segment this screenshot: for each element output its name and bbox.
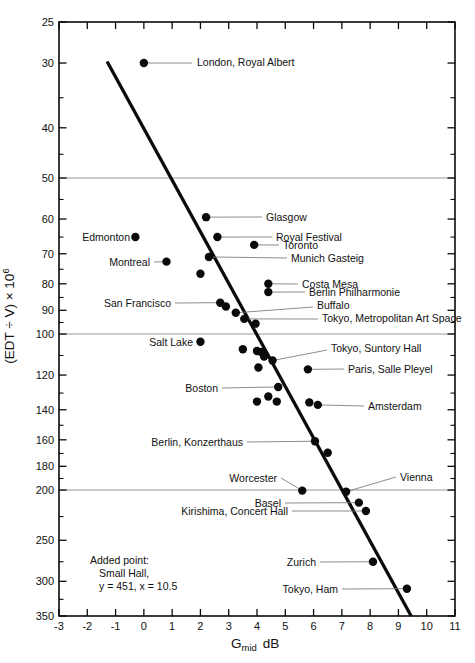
data-point [268, 356, 276, 364]
y-tick-label: 90 [42, 304, 54, 316]
leader-line [346, 477, 396, 492]
x-axis-subscript: mid [242, 642, 257, 653]
point-label: Kirishima, Concert Hall [181, 505, 288, 517]
x-axis-symbol: G [231, 636, 242, 651]
data-point [202, 213, 210, 221]
y-tick-label: 40 [42, 122, 54, 134]
y-tick-label: 70 [42, 248, 54, 260]
point-label: Edmonton [82, 231, 130, 243]
leader-line [273, 350, 327, 361]
y-axis-text: (EDT ÷ V) × 10 [2, 274, 17, 364]
y-tick-label: 250 [36, 534, 54, 546]
data-point [305, 398, 313, 406]
data-point [342, 488, 350, 496]
x-tick-label: 8 [367, 620, 373, 632]
leader-line [318, 405, 364, 406]
data-point [213, 233, 221, 241]
y-tick-label: 80 [42, 278, 54, 290]
leader-line [222, 387, 278, 388]
y-tick-label: 120 [36, 369, 54, 381]
point-label: Montreal [109, 256, 150, 268]
y-tick-label: 100 [36, 328, 54, 340]
data-point [362, 507, 370, 515]
scatter-figure: -3-2-10123456789101125304050607080901001… [0, 0, 475, 663]
data-point [264, 392, 272, 400]
annotation-line: Small Hall, [99, 567, 149, 579]
x-axis-title: GmiddB [231, 636, 279, 653]
point-label: San Francisco [104, 297, 171, 309]
x-tick-label: 1 [169, 620, 175, 632]
y-tick-label: 30 [42, 57, 54, 69]
y-tick-label: 180 [36, 460, 54, 472]
point-label: Berlin Philharmonie [309, 286, 400, 298]
point-label: Glasgow [266, 211, 307, 223]
data-point [162, 257, 170, 265]
data-point [311, 437, 319, 445]
data-point [250, 241, 258, 249]
data-point [324, 449, 332, 457]
leader-line [247, 441, 315, 442]
point-label: Tokyo, Suntory Hall [331, 342, 421, 354]
data-point [274, 383, 282, 391]
y-tick-label: 50 [42, 172, 54, 184]
y-tick-label: 60 [42, 213, 54, 225]
x-tick-label: 3 [226, 620, 232, 632]
scatter-plot-svg: -3-2-10123456789101125304050607080901001… [0, 0, 475, 663]
x-tick-label: -1 [111, 620, 121, 632]
x-axis-unit: dB [263, 636, 280, 651]
point-label: Amsterdam [368, 400, 422, 412]
data-point [239, 345, 247, 353]
x-tick-label: 6 [311, 620, 317, 632]
data-point [131, 233, 139, 241]
x-tick-label: 10 [421, 620, 433, 632]
x-tick-label: 0 [141, 620, 147, 632]
data-point [403, 584, 411, 592]
annotation-line: y = 451, x = 10.5 [99, 580, 177, 592]
point-label: Munich Gasteig [291, 252, 364, 264]
data-point [222, 302, 230, 310]
x-tick-label: 7 [339, 620, 345, 632]
data-point [260, 352, 268, 360]
y-axis-superscript: 6 [0, 268, 11, 273]
point-label: Tokyo, Ham [283, 583, 339, 595]
y-tick-label: 25 [42, 16, 54, 28]
data-point [304, 365, 312, 373]
data-point [205, 253, 213, 261]
y-tick-label: 200 [36, 484, 54, 496]
annotation-line: Added point: [90, 554, 149, 566]
point-label: Toronto [283, 239, 318, 251]
point-label: Vienna [400, 471, 433, 483]
point-label: London, Royal Albert [197, 56, 295, 68]
x-tick-label: -3 [54, 620, 64, 632]
data-point [232, 309, 240, 317]
point-label: Worcester [229, 472, 277, 484]
point-label: Boston [185, 382, 218, 394]
data-point [240, 315, 248, 323]
data-point [253, 397, 261, 405]
y-tick-label: 350 [36, 610, 54, 622]
data-point [254, 363, 262, 371]
y-tick-label: 300 [36, 575, 54, 587]
x-tick-label: 9 [395, 620, 401, 632]
point-label: Berlin, Konzerthaus [151, 436, 243, 448]
point-label: Tokyo, Metropolitan Art Space [322, 312, 462, 324]
leader-line [209, 257, 287, 258]
y-tick-label: 160 [36, 434, 54, 446]
data-point [140, 59, 148, 67]
data-point [273, 397, 281, 405]
data-point [196, 270, 204, 278]
point-label: Salt Lake [149, 336, 193, 348]
y-tick-label: 140 [36, 404, 54, 416]
x-tick-label: 2 [197, 620, 203, 632]
data-point [264, 280, 272, 288]
data-point [264, 288, 272, 296]
point-label: Buffalo [317, 299, 350, 311]
y-axis-title: (EDT ÷ V) × 106 [0, 268, 17, 363]
data-point [355, 498, 363, 506]
data-point [196, 338, 204, 346]
data-point [251, 319, 259, 327]
point-label: Zurich [287, 556, 316, 568]
x-tick-label: 11 [449, 620, 460, 632]
leader-line [236, 307, 313, 313]
data-point [314, 401, 322, 409]
